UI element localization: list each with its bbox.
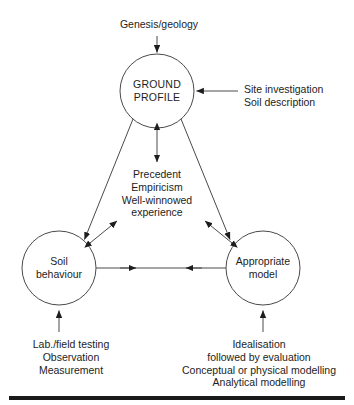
- annotation-genesis-geology: Genesis/geology: [99, 18, 219, 31]
- annotation-precedent-empiricism: Precedent Empiricism Well-winnowed exper…: [104, 168, 210, 219]
- node-label-appropriate-model: Appropriate model: [212, 255, 314, 281]
- arrow-appropriate-model-precedent-stub: [205, 221, 232, 243]
- figure-container: GROUND PROFILE Soil behaviour Appropriat…: [0, 0, 354, 405]
- node-label-soil-behaviour: Soil behaviour: [8, 255, 110, 281]
- arrow-soil-behaviour-precedent-stub: [90, 221, 117, 243]
- annotation-lab-field-testing: Lab./field testing Observation Measureme…: [3, 338, 139, 376]
- annotation-idealisation: Idealisation followed by evaluation Conc…: [166, 338, 352, 389]
- annotation-site-investigation: Site investigation Soil description: [244, 83, 354, 109]
- bottom-divider-rule: [9, 396, 345, 400]
- node-label-ground-profile: GROUND PROFILE: [106, 78, 208, 104]
